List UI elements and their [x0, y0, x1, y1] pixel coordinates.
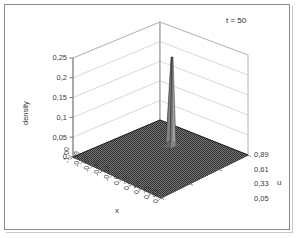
- density-tick-label-015: 0,15: [36, 94, 67, 102]
- u-tick-label-005: 0,05: [254, 195, 269, 203]
- x-tick-label-1: -0,79: [73, 151, 80, 167]
- density-axis-title: density: [22, 101, 30, 125]
- x-tick-label-6: 0,29: [123, 176, 130, 190]
- density-axis: [70, 58, 74, 157]
- figure-canvas: t = 50 0,25 0,2 0,15 0,1 0,05 0 density …: [0, 0, 298, 238]
- density-tick-label-025: 0,25: [36, 54, 67, 62]
- density-tick-label-020: 0,2: [36, 74, 67, 82]
- time-annotation: t = 50: [226, 17, 246, 25]
- density-tick-label-010: 0,1: [36, 114, 67, 122]
- u-tick-label-089: 0,89: [254, 151, 269, 159]
- x-axis-title: x: [115, 207, 119, 215]
- x-tick-label-0: -1,00: [63, 147, 70, 163]
- x-tick-label-8: 0,71: [143, 185, 150, 199]
- density-tick-label-005: 0,05: [36, 134, 67, 142]
- x-tick-label-3: -0,36: [93, 160, 100, 176]
- x-tick-label-9: 0,93: [152, 189, 159, 203]
- x-tick-label-2: -0,57: [83, 156, 90, 172]
- u-axis-title: u: [277, 179, 281, 187]
- x-tick-label-7: 0,50: [133, 180, 140, 194]
- x-tick-label-5: 0,07: [113, 171, 120, 185]
- u-tick-label-061: 0,61: [254, 166, 269, 174]
- u-tick-label-033: 0,33: [254, 180, 269, 188]
- x-tick-label-4: -0,14: [103, 165, 110, 181]
